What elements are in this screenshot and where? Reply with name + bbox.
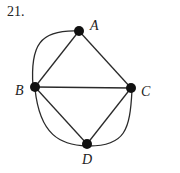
edge-c-d-curved [89,90,132,146]
node-c [126,83,136,93]
edge-b-c [35,87,131,88]
node-b [30,82,40,92]
label-c: C [141,84,151,99]
edge-b-d [35,87,87,144]
node-d [82,139,92,149]
edge-b-d-curved [35,89,87,146]
graph-diagram: A B C D [0,0,180,173]
edge-a-b [35,31,79,87]
edge-a-c [79,31,131,88]
edge-c-d [87,88,131,144]
node-a [74,26,84,36]
label-d: D [81,152,92,167]
edge-a-b-curved [33,31,77,87]
label-a: A [89,18,99,33]
label-b: B [15,83,24,98]
